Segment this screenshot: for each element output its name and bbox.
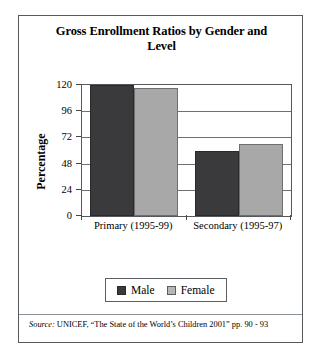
bar-male-0: [90, 85, 134, 216]
legend-item-female: Female: [167, 284, 215, 296]
legend: Male Female: [105, 278, 227, 302]
source-divider: [19, 314, 302, 315]
y-tick-label-96: 96: [42, 105, 72, 116]
plot-box: [81, 84, 292, 217]
y-tick-label-48: 48: [42, 157, 72, 168]
bar-female-1: [239, 144, 283, 216]
legend-label-male: Male: [131, 284, 155, 296]
source-note: Source: UNICEF, “The State of the World’…: [29, 319, 294, 330]
x-tick-mark-0: [81, 215, 82, 220]
y-tick-label-120: 120: [42, 79, 72, 90]
source-text: UNICEF, “The State of the World’s Childr…: [55, 320, 268, 329]
y-tick-label-24: 24: [42, 183, 72, 194]
light-gray-swatch-icon: [167, 286, 176, 295]
x-tick-mark-1: [186, 215, 187, 220]
bar-female-0: [134, 88, 178, 216]
y-tick-label-72: 72: [42, 131, 72, 142]
dark-gray-swatch-icon: [117, 286, 126, 295]
bar-male-1: [195, 151, 239, 217]
chart-title-line-2: Level: [147, 39, 176, 53]
x-tick-mark-end: [290, 215, 291, 220]
y-tick-label-0: 0: [42, 210, 72, 221]
x-axis-label-0: Primary (1995-99): [78, 220, 188, 232]
plot-area: Percentage 024487296120 Primary (1995-99…: [19, 68, 302, 258]
chart-title-line-1: Gross Enrollment Ratios by Gender and: [56, 24, 267, 38]
legend-item-male: Male: [117, 284, 155, 296]
chart-title: Gross Enrollment Ratios by Gender and Le…: [39, 24, 284, 54]
source-lead: Source:: [29, 320, 55, 329]
legend-label-female: Female: [181, 284, 215, 296]
figure-frame: Gross Enrollment Ratios by Gender and Le…: [18, 15, 303, 343]
x-axis-label-1: Secondary (1995-97): [183, 220, 293, 232]
